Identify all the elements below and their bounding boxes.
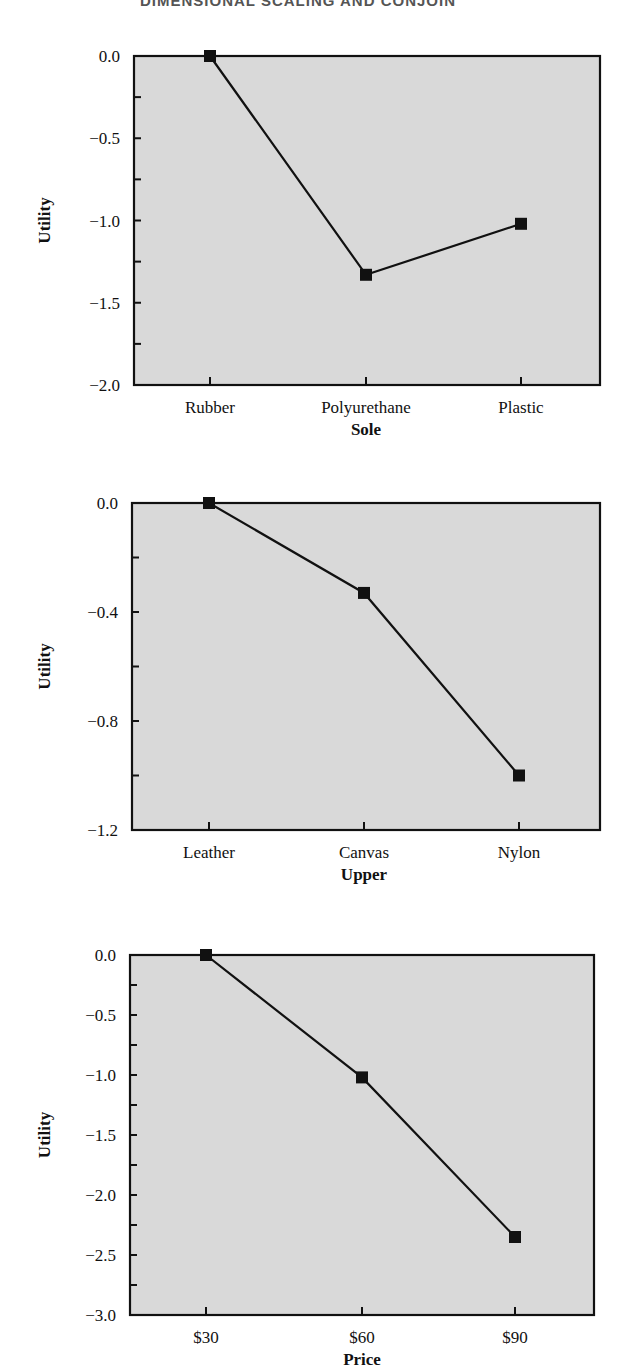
y-tick-label: −3.0 — [85, 1306, 116, 1325]
conjoint-utility-charts: 0.0−0.5−1.0−1.5−2.0RubberPolyurethanePla… — [0, 0, 631, 1369]
y-axis-title: Utility — [35, 197, 54, 244]
square-marker-icon — [360, 269, 372, 281]
y-tick-label: −1.5 — [89, 294, 120, 313]
y-tick-label: −1.5 — [85, 1126, 116, 1145]
y-tick-label: −2.0 — [85, 1186, 116, 1205]
y-tick-label: −1.0 — [85, 1066, 116, 1085]
x-tick-label: Polyurethane — [321, 398, 411, 417]
x-axis-title: Sole — [351, 420, 382, 439]
y-tick-label: 0.0 — [99, 47, 120, 66]
y-tick-label: −1.2 — [87, 821, 118, 840]
chart-sole: 0.0−0.5−1.0−1.5−2.0RubberPolyurethanePla… — [35, 47, 600, 439]
x-tick-label: Canvas — [339, 843, 389, 862]
plot-area — [130, 955, 594, 1315]
square-marker-icon — [358, 587, 370, 599]
plot-area — [134, 56, 600, 385]
y-tick-label: −2.0 — [89, 376, 120, 395]
y-tick-label: −0.5 — [85, 1006, 116, 1025]
x-tick-label: Plastic — [498, 398, 544, 417]
y-tick-label: −0.4 — [87, 603, 118, 622]
square-marker-icon — [356, 1071, 368, 1083]
x-tick-label: Rubber — [185, 398, 235, 417]
x-axis-title: Price — [343, 1350, 381, 1369]
square-marker-icon — [203, 497, 215, 509]
plot-area — [132, 503, 600, 830]
chart-price: 0.0−0.5−1.0−1.5−2.0−2.5−3.0$30$60$90Pric… — [35, 946, 594, 1369]
square-marker-icon — [515, 218, 527, 230]
running-page-header: DIMENSIONAL SCALING AND CONJOIN — [140, 0, 631, 9]
y-tick-label: −0.5 — [89, 129, 120, 148]
square-marker-icon — [204, 50, 216, 62]
square-marker-icon — [509, 1231, 521, 1243]
x-tick-label: Leather — [183, 843, 235, 862]
y-tick-label: −2.5 — [85, 1246, 116, 1265]
x-tick-label: $90 — [502, 1328, 528, 1347]
chart-upper: 0.0−0.4−0.8−1.2LeatherCanvasNylonUpperUt… — [35, 494, 600, 884]
x-tick-label: $30 — [193, 1328, 219, 1347]
x-axis-title: Upper — [341, 865, 388, 884]
x-tick-label: Nylon — [498, 843, 541, 862]
y-axis-title: Utility — [35, 1111, 54, 1158]
y-tick-label: 0.0 — [97, 494, 118, 513]
square-marker-icon — [513, 770, 525, 782]
y-tick-label: 0.0 — [95, 946, 116, 965]
y-tick-label: −0.8 — [87, 712, 118, 731]
x-tick-label: $60 — [349, 1328, 375, 1347]
square-marker-icon — [200, 949, 212, 961]
y-tick-label: −1.0 — [89, 212, 120, 231]
y-axis-title: Utility — [35, 643, 54, 690]
